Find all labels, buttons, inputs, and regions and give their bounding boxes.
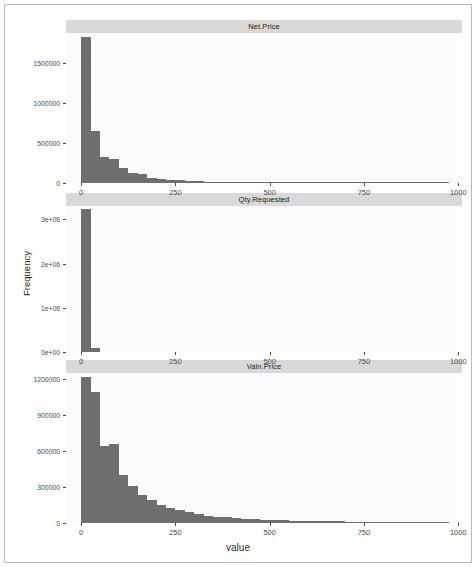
y-axis-tick-mark	[63, 264, 66, 265]
x-axis-tick-label: 0	[79, 528, 83, 537]
x-axis-tick-label: 1000	[450, 188, 467, 197]
y-axis-tick-label: 300000	[37, 484, 60, 491]
y-axis-tick-mark	[63, 308, 66, 309]
histogram-bar	[175, 510, 184, 523]
facet-net-price: Net.Price	[66, 20, 462, 183]
histogram-bar	[166, 508, 175, 523]
y-axis-tick-mark	[63, 103, 66, 104]
y-axis-tick-label: 3e+06	[41, 216, 60, 223]
y-axis-tick-label: 0	[56, 520, 60, 527]
histogram-bar	[279, 182, 288, 183]
histogram-bar	[138, 174, 147, 183]
histogram-bar	[345, 522, 354, 523]
histogram-bar	[307, 521, 316, 523]
grid-line-vertical	[270, 373, 271, 523]
histogram-bar	[402, 522, 411, 523]
x-axis-title: value	[0, 542, 476, 553]
histogram-bar	[213, 517, 222, 523]
y-axis-tick-mark	[63, 219, 66, 220]
x-axis-tick-mark	[458, 523, 459, 526]
histogram-bar	[279, 520, 288, 523]
histogram-bar	[373, 182, 382, 183]
facet-panel-qty-requested	[66, 206, 462, 352]
y-axis-tick-label: 1e+06	[41, 304, 60, 311]
x-axis-tick-label: 500	[263, 188, 276, 197]
histogram-bar	[270, 520, 279, 523]
y-axis-tick-label: 500000	[37, 140, 60, 147]
histogram-bar	[355, 182, 364, 183]
facet-strip-label-net-price: Net.Price	[66, 20, 462, 33]
histogram-bar	[326, 521, 335, 523]
grid-line-vertical	[364, 373, 365, 523]
x-axis-tick-label: 500	[263, 357, 276, 366]
y-axis-tick-mark	[63, 415, 66, 416]
histogram-bar	[175, 180, 184, 183]
x-axis-tick-label: 1000	[450, 357, 467, 366]
y-axis-tick-label: 1500000	[34, 60, 60, 67]
histogram-bar	[185, 181, 194, 183]
x-axis-tick-label: 0	[79, 188, 83, 197]
histogram-bar	[232, 518, 241, 523]
grid-line-horizontal	[66, 103, 462, 104]
histogram-bar	[270, 182, 279, 183]
histogram-bar	[251, 182, 260, 183]
histogram-bar	[383, 522, 392, 523]
y-axis-tick-label: 900000	[37, 412, 60, 419]
histogram-bar	[364, 522, 373, 523]
x-axis-tick-mark	[364, 183, 365, 186]
histogram-bar	[336, 521, 345, 523]
histogram-bar	[128, 486, 137, 523]
histogram-bar	[241, 519, 250, 523]
x-axis-tick-label: 750	[358, 528, 371, 537]
y-axis-tick-mark	[63, 63, 66, 64]
grid-line-vertical	[270, 206, 271, 352]
x-axis-tick-mark	[270, 352, 271, 355]
facet-valn-price: Valn.Price	[66, 360, 462, 523]
grid-line-horizontal	[66, 415, 462, 416]
grid-line-horizontal	[66, 308, 462, 309]
histogram-bar	[383, 182, 392, 183]
histogram-bar	[194, 514, 203, 523]
histogram-bar	[223, 182, 232, 183]
histogram-bar	[100, 157, 109, 183]
x-axis-tick-mark	[175, 523, 176, 526]
histogram-bar	[204, 182, 213, 183]
histogram-bar	[100, 446, 109, 523]
histogram-bar	[241, 182, 250, 183]
grid-line-horizontal	[66, 63, 462, 64]
x-axis-tick-label: 750	[358, 357, 371, 366]
histogram-bar	[364, 182, 373, 183]
histogram-bar	[81, 37, 90, 183]
histogram-bar	[392, 522, 401, 523]
y-axis-tick-mark	[63, 143, 66, 144]
x-axis-tick-mark	[270, 523, 271, 526]
histogram-bar	[411, 182, 420, 183]
histogram-bar	[119, 168, 128, 183]
x-axis-tick-mark	[175, 183, 176, 186]
histogram-bar	[109, 159, 118, 183]
y-axis-tick-mark	[63, 523, 66, 524]
histogram-bar	[421, 182, 430, 183]
histogram-bar	[128, 173, 137, 183]
grid-line-vertical	[175, 33, 176, 183]
histogram-bar	[204, 516, 213, 523]
histogram-bar	[213, 182, 222, 183]
histogram-bar	[298, 182, 307, 183]
y-axis-tick-mark	[63, 352, 66, 353]
histogram-bar	[109, 444, 118, 523]
histogram-bar	[260, 520, 269, 523]
y-axis-tick-label: 2e+06	[41, 260, 60, 267]
histogram-bar	[402, 182, 411, 183]
x-axis-tick-mark	[364, 523, 365, 526]
histogram-bar	[260, 182, 269, 183]
y-axis-title: Frequency	[21, 224, 32, 324]
histogram-bar	[81, 209, 90, 352]
facet-panel-net-price	[66, 33, 462, 183]
histogram-bar	[326, 182, 335, 183]
y-axis-tick-label: 0e+00	[41, 349, 60, 356]
histogram-bar	[307, 182, 316, 183]
y-axis-tick-mark	[63, 183, 66, 184]
grid-line-vertical	[458, 206, 459, 352]
histogram-bar	[166, 180, 175, 183]
histogram-bar	[91, 392, 100, 523]
